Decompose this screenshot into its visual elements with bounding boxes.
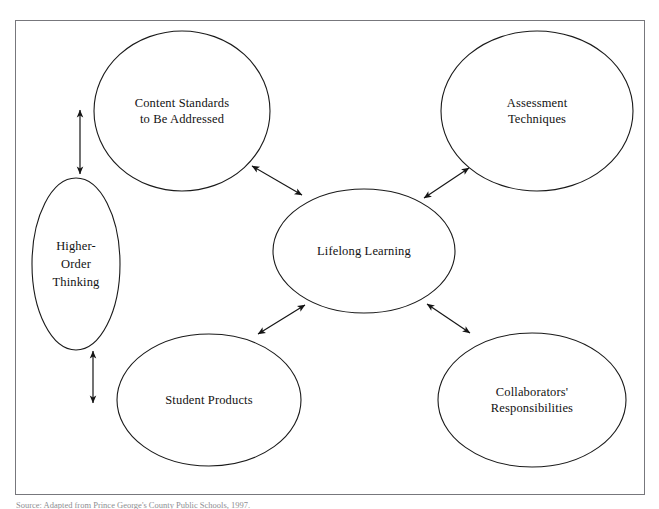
figure-border [15, 20, 645, 495]
figure-page: Content Standards to Be Addressed Assess… [0, 0, 659, 509]
figure-caption: Source: Adapted from Prince George's Cou… [16, 500, 576, 509]
